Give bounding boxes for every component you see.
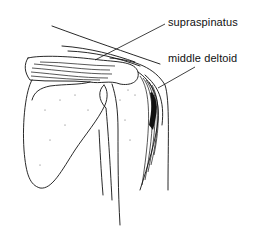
label-middle-deltoid: middle deltoid [168, 52, 237, 64]
shoulder-illustration [0, 0, 253, 252]
label-supraspinatus: supraspinatus [168, 16, 238, 28]
